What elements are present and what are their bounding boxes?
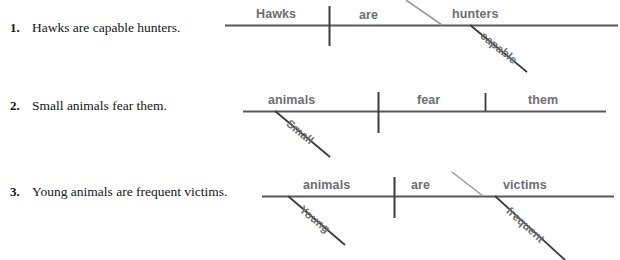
sentence-item-1: 1. Hawks are capable hunters. <box>10 20 250 38</box>
sentence-item-2: 2. Small animals fear them. <box>10 98 250 116</box>
sentence-item-3: 3. Young animals are frequent victims. <box>10 184 250 202</box>
diagram-3-complement-label: victims <box>503 178 547 192</box>
diagram-1-complement-separator <box>406 0 442 25</box>
diagram-2-complement-label: them <box>528 93 558 107</box>
diagram-2-subject-label: animals <box>268 93 315 107</box>
diagram-1-subject-label: Hawks <box>256 7 296 21</box>
sentence-number-1: 1. <box>10 20 32 36</box>
sentence-number-2: 2. <box>10 98 32 114</box>
diagram-3-complement-separator <box>452 172 483 196</box>
diagram-1-modifier-label-capable: capable <box>478 29 519 66</box>
diagram-3-modifier-label-frequent: frequent <box>504 205 547 245</box>
diagram-1-complement-label: hunters <box>452 7 499 21</box>
sentence-text-2: Small animals fear them. <box>32 98 250 114</box>
sentence-number-3: 3. <box>10 184 32 200</box>
diagram-3-subject-label: animals <box>303 178 350 192</box>
diagram-2-modifier-label-small: Small <box>284 117 316 146</box>
sentence-text-1: Hawks are capable hunters. <box>32 20 250 36</box>
diagram-1-verb-label: are <box>359 8 378 22</box>
sentence-text-3: Young animals are frequent victims. <box>32 184 250 200</box>
diagram-3-modifier-label-young: Young <box>297 203 332 235</box>
sentence-diagram-worksheet: 1. Hawks are capable hunters. 2. Small a… <box>0 0 620 260</box>
diagram-2-verb-label: fear <box>417 93 440 107</box>
diagram-3-verb-label: are <box>411 178 430 192</box>
